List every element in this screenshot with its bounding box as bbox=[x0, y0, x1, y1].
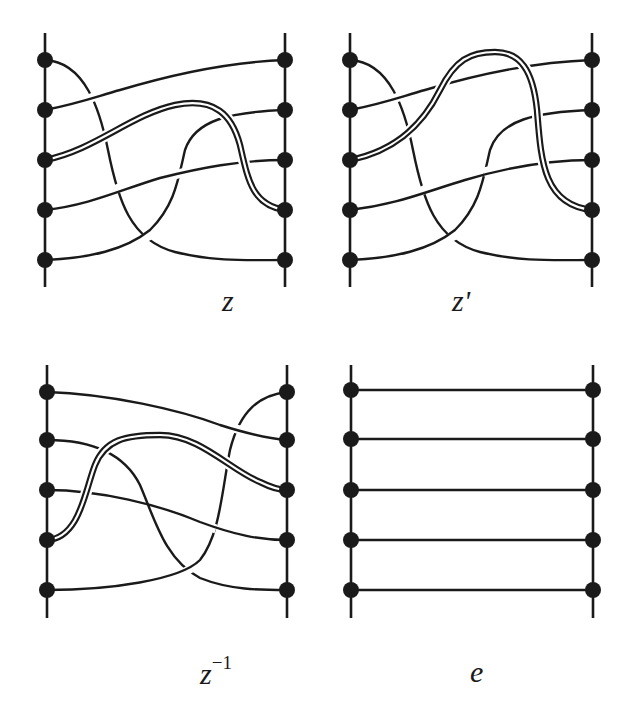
strand bbox=[350, 60, 592, 260]
label-text: z' bbox=[452, 284, 470, 317]
label-e: e bbox=[470, 657, 483, 687]
nodes bbox=[37, 52, 293, 268]
strand bbox=[350, 60, 592, 110]
label-superscript: −1 bbox=[212, 652, 232, 673]
label-text: z bbox=[200, 657, 212, 690]
label-z: z bbox=[222, 286, 234, 316]
braid-figure bbox=[0, 0, 638, 710]
highlighted-strand bbox=[45, 103, 285, 210]
nodes bbox=[342, 52, 600, 268]
highlighted-strand bbox=[350, 52, 592, 210]
label-text: z bbox=[222, 284, 234, 317]
braid-z-prime bbox=[342, 33, 600, 287]
label-text: e bbox=[470, 655, 483, 688]
label-z-prime: z' bbox=[452, 286, 470, 316]
label-z-inverse: z−1 bbox=[200, 657, 232, 689]
braid-z-inverse bbox=[39, 365, 295, 618]
braid-z bbox=[37, 33, 293, 287]
braid-e bbox=[343, 365, 601, 618]
